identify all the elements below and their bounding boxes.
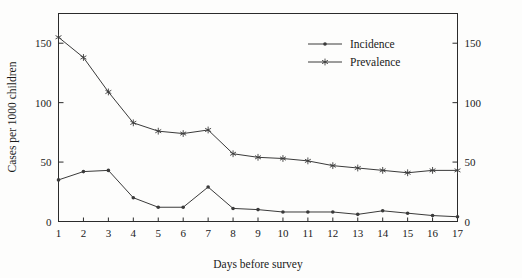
chart-figure: 1234567891011121314151617 050100150 0501…: [0, 0, 522, 278]
chart-legend: IncidencePrevalence: [308, 38, 400, 68]
x-axis-title: Days before survey: [213, 258, 303, 271]
y-tick-label-left-0: 0: [46, 216, 52, 228]
x-axis-tick-labels: 1234567891011121314151617: [56, 227, 464, 239]
x-tick-label-13: 13: [352, 227, 364, 239]
data-point-incidence-1: [57, 178, 61, 182]
dot-marker: [323, 42, 327, 46]
legend-entry-incidence: Incidence: [308, 38, 395, 50]
y-axis-left-tick-labels: 050100150: [35, 37, 52, 227]
plot-frame: [59, 14, 458, 222]
x-axis-ticks: [59, 218, 458, 222]
x-tick-label-3: 3: [106, 227, 112, 239]
x-tick-label-7: 7: [205, 227, 211, 239]
data-point-incidence-15: [406, 211, 410, 215]
line-chart-svg: 1234567891011121314151617 050100150 0501…: [0, 0, 522, 278]
data-point-incidence-7: [206, 185, 210, 189]
x-tick-label-4: 4: [131, 227, 137, 239]
x-tick-label-1: 1: [56, 227, 62, 239]
data-point-incidence-12: [331, 210, 335, 214]
data-point-incidence-8: [231, 207, 235, 211]
x-tick-label-17: 17: [452, 227, 464, 239]
series-incidence: [57, 169, 460, 219]
x-tick-label-11: 11: [303, 227, 314, 239]
legend-entry-prevalence: Prevalence: [308, 56, 400, 68]
y-axis-right-ticks: [453, 43, 458, 221]
x-tick-label-8: 8: [230, 227, 236, 239]
data-point-incidence-9: [256, 208, 260, 212]
y-axis-right-tick-labels: 050100150: [465, 37, 482, 227]
data-point-incidence-6: [181, 205, 185, 209]
x-tick-label-6: 6: [180, 227, 186, 239]
x-tick-label-5: 5: [156, 227, 162, 239]
data-point-incidence-16: [431, 214, 435, 218]
x-tick-label-12: 12: [327, 227, 338, 239]
y-tick-label-left-100: 100: [35, 97, 52, 109]
data-point-incidence-13: [356, 213, 360, 217]
data-point-incidence-10: [281, 210, 285, 214]
x-tick-label-10: 10: [277, 227, 289, 239]
data-point-prevalence-1: [56, 34, 62, 41]
legend-label-prevalence: Prevalence: [350, 56, 400, 68]
x-tick-label-14: 14: [377, 227, 389, 239]
y-axis-left-ticks: [59, 43, 64, 221]
y-tick-label-right-0: 0: [465, 216, 471, 228]
data-point-incidence-11: [306, 210, 310, 214]
y-tick-label-right-50: 50: [465, 156, 477, 168]
x-tick-label-15: 15: [402, 227, 414, 239]
data-point-incidence-2: [82, 170, 86, 174]
x-tick-label-2: 2: [81, 227, 87, 239]
data-point-incidence-3: [107, 169, 111, 173]
y-tick-label-left-150: 150: [35, 37, 52, 49]
data-point-incidence-14: [381, 209, 385, 213]
x-tick-label-9: 9: [255, 227, 261, 239]
x-tick-label-16: 16: [427, 227, 439, 239]
y-tick-label-left-50: 50: [41, 156, 53, 168]
data-point-incidence-5: [156, 205, 160, 209]
y-tick-label-right-100: 100: [465, 97, 482, 109]
legend-label-incidence: Incidence: [350, 38, 395, 50]
data-point-incidence-17: [456, 215, 460, 219]
y-tick-label-right-150: 150: [465, 37, 482, 49]
y-axis-title: Cases per 1000 children: [6, 61, 19, 172]
data-point-incidence-4: [132, 196, 136, 200]
